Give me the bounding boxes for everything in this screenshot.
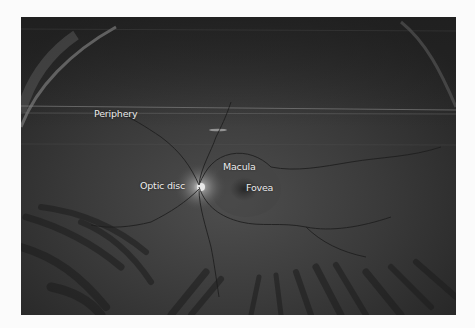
label-macula: Macula [223,162,256,172]
upper-shadow [21,17,456,127]
label-optic-disc: Optic disc [140,181,185,191]
label-periphery: Periphery [94,109,137,119]
fundus-photograph: Periphery Macula Optic disc Fovea [21,17,456,315]
light-reflex-streak [209,129,227,132]
label-fovea: Fovea [246,183,273,193]
